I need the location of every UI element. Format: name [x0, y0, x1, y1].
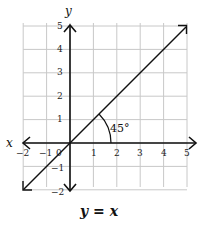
svg-text:1: 1: [57, 114, 63, 124]
svg-text:4: 4: [57, 44, 63, 54]
svg-text:0: 0: [56, 148, 62, 158]
svg-text:1: 1: [91, 148, 97, 158]
svg-text:2: 2: [57, 91, 63, 101]
svg-text:3: 3: [57, 67, 63, 77]
svg-text:−2: −2: [16, 148, 29, 158]
graph: 45° x y −2 −1 0 1 2 3 4 5 5 4 3 2 1 −1 −…: [0, 0, 198, 227]
x-axis-label: x: [6, 136, 13, 150]
x-tick-labels: −2 −1 0 1 2 3 4 5: [16, 148, 190, 158]
svg-text:5: 5: [57, 21, 63, 31]
svg-text:4: 4: [161, 148, 167, 158]
svg-text:−1: −1: [51, 163, 64, 173]
angle-label: 45°: [110, 122, 130, 135]
svg-text:5: 5: [184, 148, 190, 158]
y-axis-label: y: [64, 4, 72, 18]
graph-caption: y = x: [0, 203, 198, 219]
svg-text:−1: −1: [39, 148, 52, 158]
line-y-equals-x: [23, 26, 187, 191]
svg-text:−2: −2: [51, 187, 64, 197]
svg-text:3: 3: [137, 148, 143, 158]
y-tick-labels: 5 4 3 2 1 −1 −2: [51, 21, 64, 197]
svg-text:2: 2: [114, 148, 120, 158]
